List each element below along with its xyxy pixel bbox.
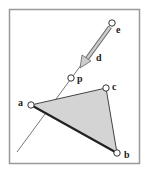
point-b[interactable] [114, 150, 120, 156]
point-p[interactable] [68, 75, 74, 81]
label-p: p [77, 73, 83, 84]
point-e[interactable] [109, 20, 115, 26]
point-a[interactable] [28, 102, 34, 108]
label-d: d [96, 52, 102, 63]
point-c[interactable] [103, 85, 109, 91]
label-e: e [116, 24, 121, 35]
label-c: c [112, 81, 117, 92]
label-b: b [124, 149, 130, 160]
label-a: a [18, 97, 23, 108]
ray-triangle-diagram: e d p a c b [0, 0, 149, 170]
